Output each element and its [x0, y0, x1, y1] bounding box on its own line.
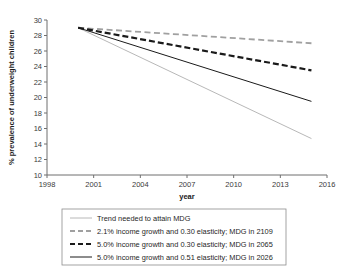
y-tick-label: 14: [34, 140, 42, 149]
legend-label-4: 5.0% income growth and 0.51 elasticity; …: [97, 253, 273, 262]
y-tick-label: 18: [34, 109, 42, 118]
legend-label-2: 2.1% income growth and 0.30 elasticity; …: [97, 227, 273, 236]
y-axis-title: % prevalence of underweight children: [7, 30, 16, 165]
series-line-1: [78, 28, 311, 139]
x-tick-label: 1998: [39, 180, 56, 189]
x-tick-label: 2010: [225, 180, 242, 189]
y-tick-label: 28: [34, 31, 42, 40]
x-axis-title: year: [179, 192, 195, 201]
y-tick-label: 12: [34, 155, 42, 164]
x-tick-label: 2004: [132, 180, 149, 189]
y-tick-label: 22: [34, 78, 42, 87]
figure-title: [40, 0, 320, 4]
legend-label-3: 5.0% income growth and 0.30 elasticity; …: [97, 240, 273, 249]
y-tick-label: 16: [34, 124, 42, 133]
x-axis: 1998200120042007201020132016: [39, 175, 336, 189]
x-tick-label: 2016: [319, 180, 336, 189]
line-chart: 1012141618202224262830 19982001200420072…: [0, 0, 347, 280]
y-tick-label: 24: [34, 62, 42, 71]
series-line-2: [78, 28, 311, 44]
y-tick-label: 10: [34, 171, 42, 180]
y-tick-label: 30: [34, 16, 42, 25]
series-lines: [78, 28, 311, 139]
x-tick-label: 2001: [85, 180, 102, 189]
y-tick-label: 26: [34, 47, 42, 56]
legend: Trend needed to attain MDG2.1% income gr…: [62, 209, 286, 265]
y-axis: 1012141618202224262830: [34, 16, 47, 180]
y-tick-label: 20: [34, 93, 42, 102]
x-tick-label: 2007: [179, 180, 196, 189]
series-line-3: [78, 28, 311, 71]
legend-label-1: Trend needed to attain MDG: [97, 214, 191, 223]
x-tick-label: 2013: [272, 180, 289, 189]
chart-figure: 1012141618202224262830 19982001200420072…: [0, 0, 347, 280]
